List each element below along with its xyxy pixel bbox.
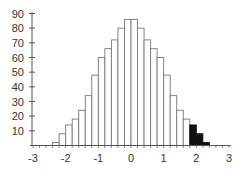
x-axis-ticks: -3-2-10123 xyxy=(28,146,232,165)
y-tick-label: 40 xyxy=(12,81,24,93)
histogram-bars xyxy=(53,19,210,145)
x-tick-label: 1 xyxy=(161,152,167,164)
x-tick-label: -3 xyxy=(28,152,38,164)
x-tick-label: 2 xyxy=(193,152,199,164)
histogram-bar xyxy=(85,96,92,146)
histogram-bar xyxy=(157,58,164,146)
y-tick-label: 90 xyxy=(12,8,24,20)
histogram-bar xyxy=(124,19,131,145)
histogram-bar xyxy=(138,28,145,145)
histogram-bar xyxy=(92,75,99,145)
y-tick-label: 20 xyxy=(12,110,24,122)
histogram-bar xyxy=(170,96,177,146)
histogram-bar xyxy=(144,40,151,146)
x-tick-label: -2 xyxy=(61,152,71,164)
histogram-bar xyxy=(105,49,112,146)
histogram-bar xyxy=(118,28,125,145)
histogram-bar xyxy=(59,134,66,146)
y-tick-label: 70 xyxy=(12,37,24,49)
y-tick-label: 10 xyxy=(12,125,24,137)
y-tick-label: 60 xyxy=(12,52,24,64)
histogram-bar xyxy=(151,49,158,146)
histogram-bar xyxy=(111,40,118,146)
histogram-bar xyxy=(164,75,171,145)
y-tick-label: 80 xyxy=(12,22,24,34)
histogram-bar xyxy=(72,119,79,145)
histogram-bar xyxy=(98,58,105,146)
x-tick-label: -1 xyxy=(93,152,103,164)
histogram-bar xyxy=(131,19,138,145)
histogram-bar-highlighted xyxy=(190,125,197,146)
histogram-bar-highlighted xyxy=(196,134,203,146)
x-tick-label: 3 xyxy=(226,152,232,164)
histogram-bar xyxy=(177,110,184,145)
histogram-bar xyxy=(79,110,86,145)
x-tick-label: 0 xyxy=(128,152,134,164)
histogram-bar xyxy=(183,119,190,145)
histogram-bar xyxy=(66,125,73,146)
y-tick-label: 30 xyxy=(12,96,24,108)
histogram-chart: 102030405060708090 -3-2-10123 xyxy=(0,0,245,170)
y-tick-label: 50 xyxy=(12,66,24,78)
